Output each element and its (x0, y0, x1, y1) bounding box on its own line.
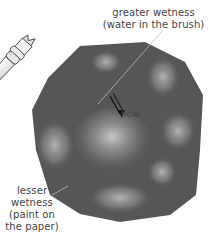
flow-label: flow (121, 108, 140, 120)
watercolor-illustration: greater wetness (water in the brush) flo… (0, 0, 213, 233)
lesser-wetness-line4: the paper) (2, 221, 62, 233)
lesser-wetness-line1: lesser (2, 185, 62, 197)
lesser-wetness-label: lesser wetness (paint on the paper) (2, 185, 62, 233)
greater-wetness-line1: greater wetness (96, 7, 211, 19)
greater-wetness-label: greater wetness (water in the brush) (96, 7, 211, 31)
lesser-wetness-line3: (paint on (2, 209, 62, 221)
lesser-wetness-line2: wetness (2, 197, 62, 209)
greater-wetness-line2: (water in the brush) (96, 19, 211, 31)
paintbrush (0, 31, 38, 132)
